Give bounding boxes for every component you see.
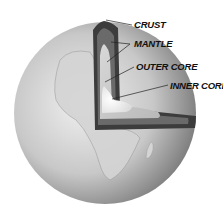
label-mantle: MANTLE — [134, 38, 173, 49]
earth-layers-diagram: CRUST MANTLE OUTER CORE INNER CORE — [0, 0, 223, 212]
label-outer-core: OUTER CORE — [136, 61, 198, 72]
label-crust: CRUST — [134, 19, 167, 30]
label-inner-core: INNER CORE — [170, 80, 223, 91]
